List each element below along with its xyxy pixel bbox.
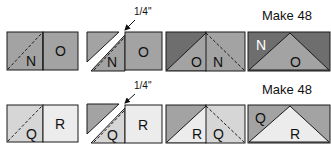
flying-geese-diagram: N O N O 1/4" O N Make 48 N O Q R <box>0 0 331 151</box>
row2-step2-unit: Q R 1/4" <box>87 80 162 143</box>
row2-step4-corner-label: Q <box>255 110 266 126</box>
row2-step4-unit: Make 48 Q R <box>248 82 330 143</box>
measure-arrow-icon <box>125 94 135 103</box>
row2-step3-left-label: R <box>192 126 202 142</box>
row1-step2-right-label: O <box>138 44 149 60</box>
row2-step1-unit: Q R <box>7 105 78 142</box>
row1-step2-left-label: N <box>107 54 117 70</box>
row2-step4-center-label: R <box>290 126 300 142</box>
row2-step1-right-label: R <box>55 116 65 132</box>
row1-step2-unit: N O 1/4" <box>87 6 162 71</box>
row1-step4-unit: Make 48 N O <box>248 8 330 71</box>
row2-step3-right-label: Q <box>213 126 224 142</box>
row1-step3-left-label: O <box>191 54 202 70</box>
row2-step2-right-label: R <box>138 117 148 133</box>
row2-step1-left-label: Q <box>26 126 37 142</box>
row1-step4-center-label: O <box>290 54 301 70</box>
row2-step3-unit: R Q <box>166 105 245 143</box>
row1-step2-measure: 1/4" <box>134 6 152 17</box>
row1-step4-caption: Make 48 <box>262 8 312 23</box>
row2-step2-left-label: Q <box>107 127 118 143</box>
row1-step3-unit: O N <box>166 32 245 71</box>
measure-arrow-icon <box>125 20 135 30</box>
row2-step2-measure: 1/4" <box>134 80 152 91</box>
row1-step1-right-label: O <box>55 43 66 59</box>
row2-step4-caption: Make 48 <box>262 82 312 97</box>
row1-step1-unit: N O <box>7 32 78 70</box>
row1-step4-corner-label: N <box>256 37 266 53</box>
row1-step3-right-label: N <box>213 54 223 70</box>
row1-step1-left-label: N <box>26 53 36 69</box>
